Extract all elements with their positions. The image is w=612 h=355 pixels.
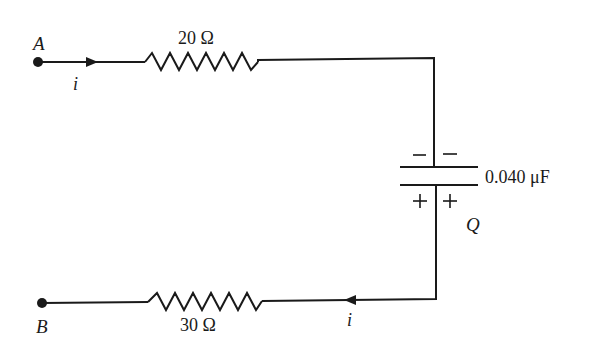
terminal-a-dot — [33, 57, 43, 67]
terminal-a-label: A — [31, 33, 45, 54]
top-branch — [38, 53, 434, 148]
resistor-30-label: 30 Ω — [180, 315, 216, 335]
circuit-diagram: A i 20 Ω 0.040 μF Q B 30 Ω i — [0, 0, 612, 355]
resistor-20-ohm — [145, 53, 258, 70]
charge-label: Q — [466, 214, 480, 235]
resistor-30-ohm — [148, 293, 262, 310]
capacitor-value-label: 0.040 μF — [485, 167, 550, 187]
terminal-b-dot — [37, 298, 47, 308]
terminal-b-label: B — [36, 316, 48, 337]
bottom-branch — [42, 293, 436, 310]
current-label-top: i — [73, 74, 78, 94]
current-arrow-top — [86, 57, 98, 67]
resistor-20-label: 20 Ω — [178, 28, 214, 48]
current-label-bottom: i — [347, 310, 352, 330]
current-arrow-bottom — [344, 295, 356, 305]
